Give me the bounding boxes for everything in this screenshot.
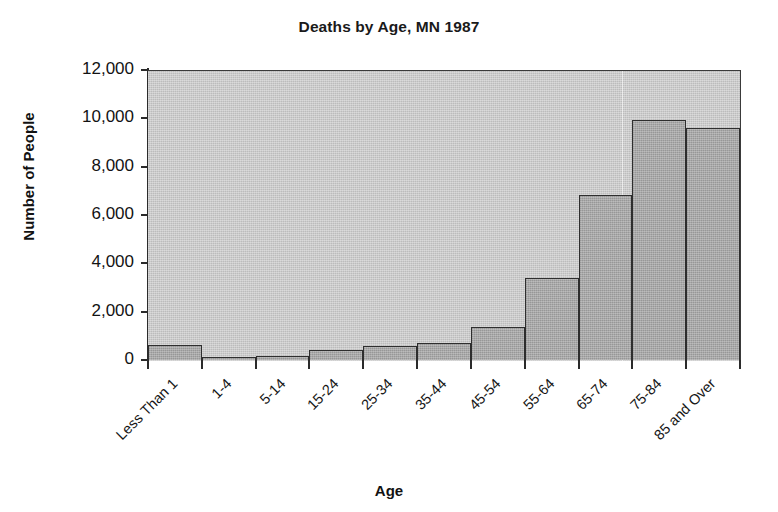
bar-55-64 bbox=[525, 278, 579, 360]
x-axis-tick bbox=[201, 360, 203, 369]
bar-75-84 bbox=[632, 120, 686, 360]
y-axis-tick bbox=[141, 69, 148, 71]
y-axis-tick-label: 6,000 bbox=[40, 205, 134, 222]
y-axis-tick bbox=[141, 214, 148, 216]
bar-chart: Deaths by Age, MN 1987 Number of People … bbox=[0, 0, 778, 512]
y-axis-tick bbox=[141, 311, 148, 313]
x-axis-tick bbox=[362, 360, 364, 369]
y-axis-tick bbox=[141, 166, 148, 168]
y-axis-tick-label: 4,000 bbox=[40, 253, 134, 270]
y-axis-tick-label: 12,000 bbox=[40, 60, 134, 77]
bar-85-and-over bbox=[686, 128, 740, 360]
bar-5-14 bbox=[256, 356, 310, 360]
bar-1-4 bbox=[202, 357, 256, 360]
y-axis-tick bbox=[141, 117, 148, 119]
x-axis-tick bbox=[255, 360, 257, 369]
x-axis-tick bbox=[308, 360, 310, 369]
bar-45-54 bbox=[471, 327, 525, 360]
x-axis-tick bbox=[416, 360, 418, 369]
bar-less-than-1 bbox=[148, 345, 202, 360]
x-axis-tick bbox=[685, 360, 687, 369]
bar-25-34 bbox=[363, 346, 417, 361]
chart-title: Deaths by Age, MN 1987 bbox=[0, 18, 778, 36]
y-axis-tick-label: 0 bbox=[40, 350, 134, 367]
x-axis-title: Age bbox=[0, 482, 778, 499]
y-axis-tick-label: 10,000 bbox=[40, 108, 134, 125]
x-axis-tick bbox=[524, 360, 526, 369]
y-axis-title: Number of People bbox=[20, 87, 37, 267]
y-axis-tick-label: 8,000 bbox=[40, 157, 134, 174]
x-axis-tick bbox=[578, 360, 580, 369]
x-axis-tick bbox=[739, 360, 741, 369]
bar-35-44 bbox=[417, 343, 471, 360]
x-axis-tick bbox=[470, 360, 472, 369]
y-axis-tick-label: 2,000 bbox=[40, 302, 134, 319]
bar-65-74 bbox=[579, 195, 633, 360]
x-axis-tick bbox=[147, 360, 149, 369]
x-axis-tick bbox=[631, 360, 633, 369]
y-axis-tick bbox=[141, 262, 148, 264]
bar-15-24 bbox=[309, 350, 363, 360]
